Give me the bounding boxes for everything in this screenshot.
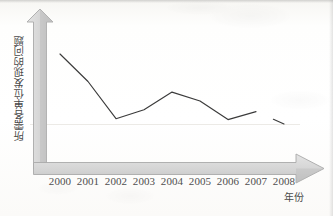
x-tick-2000: 2000 [45,175,75,187]
x-tick-2006: 2006 [213,175,243,187]
y-axis-title-text: 所需各单位发现的问题 [14,35,25,141]
x-tick-2007: 2007 [241,175,271,187]
chart-container: 所需各单位发现的问题 2000 2001 2002 2003 2004 2005… [0,0,333,216]
x-tick-2001: 2001 [73,175,103,187]
y-axis-shading [40,9,53,169]
data-line [60,54,256,120]
x-axis-title: 年份 [284,189,304,204]
x-tick-2003: 2003 [129,175,159,187]
x-tick-2004: 2004 [157,175,187,187]
data-line-tail-segment [273,119,284,124]
y-axis-title: 所需各单位发现的问题 [8,26,30,151]
x-tick-2005: 2005 [185,175,215,187]
x-tick-2008: 2008 [269,175,299,187]
x-tick-2002: 2002 [101,175,131,187]
